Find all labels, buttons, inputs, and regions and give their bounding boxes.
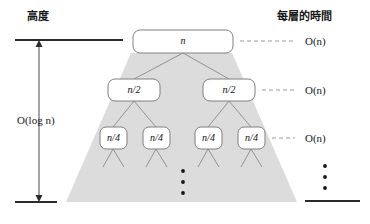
tree-node-level1-0[interactable]: n/2 [108, 79, 160, 101]
cost-label-level0: O(n) [305, 35, 326, 48]
tree-node-level2-1[interactable]: n/4 [143, 127, 170, 149]
tree-node-label: n/2 [128, 84, 141, 95]
right-axis-title: 每層的時間 [277, 9, 332, 23]
height-measure-label: O(log n) [17, 114, 55, 127]
cost-label-level2: O(n) [305, 132, 326, 145]
height-axis-up-arrowhead [36, 40, 43, 47]
height-axis-down-arrowhead [36, 195, 43, 202]
ellipsis-dot [323, 186, 327, 190]
tree-node-level2-2[interactable]: n/4 [195, 127, 222, 149]
ellipsis-dot [181, 191, 185, 195]
ellipsis-dot [323, 164, 327, 168]
tree-node-label: n/4 [202, 132, 215, 143]
tree-node-label: n/4 [245, 132, 258, 143]
tree-node-label: n/2 [223, 84, 236, 95]
tree-node-level1-1[interactable]: n/2 [203, 79, 255, 101]
cost-label-level1: O(n) [305, 84, 326, 97]
tree-node-label: n/4 [150, 132, 163, 143]
ellipsis-dot [181, 180, 185, 184]
tree-node-level2-0[interactable]: n/4 [100, 127, 127, 149]
cost-continuation-ellipsis [323, 164, 327, 190]
tree-node-label: n/4 [107, 132, 120, 143]
tree-node-level0-0[interactable]: n [133, 30, 233, 53]
tree-node-label: n [181, 35, 186, 46]
recursion-tree-diagram: n n/2 n/2 n/4 n/4 n/4 n/4 高 [0, 0, 370, 224]
tree-node-level2-3[interactable]: n/4 [238, 127, 265, 149]
left-axis-title: 高度 [27, 9, 50, 23]
ellipsis-dot [181, 169, 185, 173]
ellipsis-dot [323, 175, 327, 179]
